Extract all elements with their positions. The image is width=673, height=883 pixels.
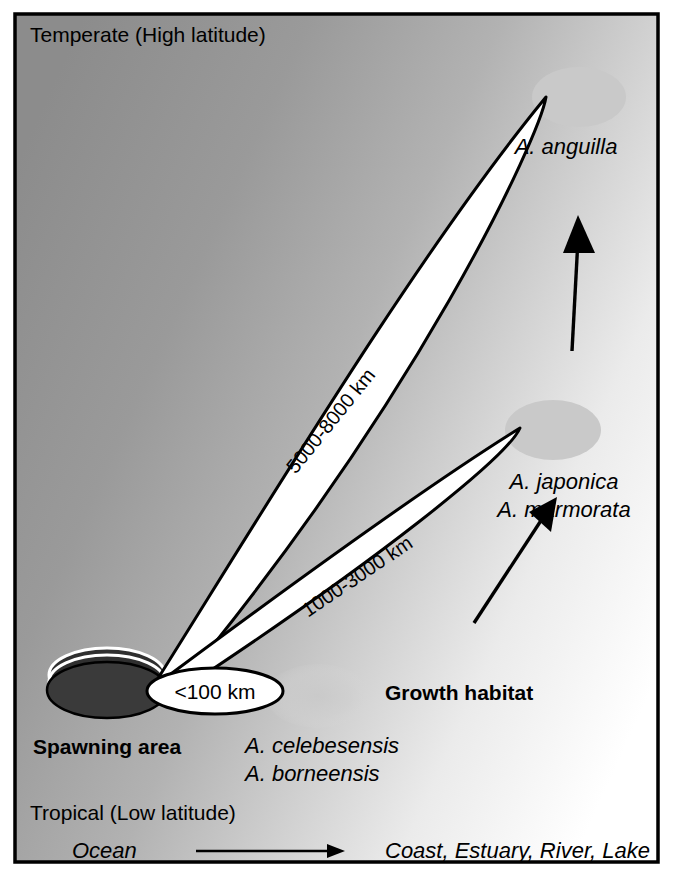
species-label-celebesensis: A. celebesensis	[243, 733, 399, 758]
species-label-japonica: A. japonica	[508, 469, 619, 494]
label-temperate: Temperate (High latitude)	[30, 23, 266, 46]
label-tropical: Tropical (Low latitude)	[30, 801, 236, 824]
species-label-marmorata: A. marmorata	[495, 497, 630, 522]
axis-label-left: Ocean	[72, 838, 137, 863]
axis-label-right: Coast, Estuary, River, Lake	[385, 838, 650, 863]
figure-canvas: 5000-8000 km 1000-3000 km <100 km Temper…	[0, 0, 673, 883]
route-label-short: <100 km	[174, 680, 255, 703]
label-spawning-area: Spawning area	[33, 735, 182, 758]
species-label-anguilla: A. anguilla	[513, 134, 618, 159]
label-growth-habitat: Growth habitat	[385, 681, 533, 704]
eel-migration-diagram: 5000-8000 km 1000-3000 km <100 km Temper…	[0, 0, 673, 883]
species-label-borneensis: A. borneensis	[243, 761, 380, 786]
